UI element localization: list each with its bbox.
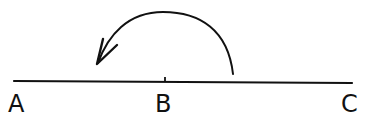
point-label-a: A [8,92,24,116]
point-label-c: C [341,92,358,116]
point-label-b: B [155,92,171,116]
line-segment-ac [14,81,352,83]
curved-arrow-arc [98,12,233,74]
diagram-canvas [0,0,370,124]
